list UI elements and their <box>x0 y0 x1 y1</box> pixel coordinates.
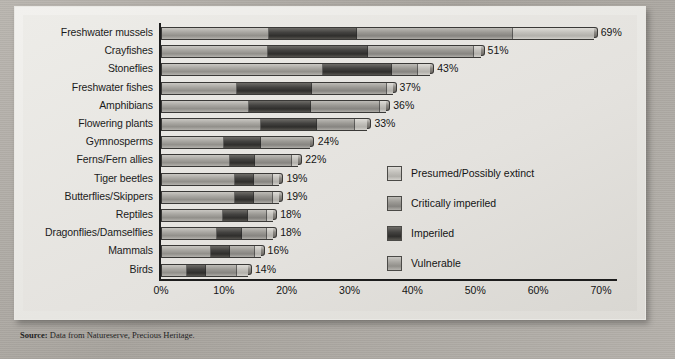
bar-row: Reptiles18% <box>23 206 637 223</box>
bar-row: Butterflies/Skippers19% <box>23 188 637 205</box>
bar-segment-imperiled <box>261 119 317 130</box>
category-label: Dragonflies/Damselflies <box>23 224 153 241</box>
legend-item-imperiled: Imperiled <box>387 218 534 248</box>
bar-row: Ferns/Fern allies22% <box>23 151 637 168</box>
bar-value-label: 18% <box>280 227 301 238</box>
legend-item-critically-imperiled: Critically imperiled <box>387 188 534 218</box>
bar-row: Mammals16% <box>23 242 637 259</box>
bar-segment-critically_imperiled <box>312 83 387 94</box>
bar-segment-imperiled <box>323 64 392 75</box>
legend-label: Presumed/Possibly extinct <box>411 167 534 179</box>
bar-segment-critically_imperiled <box>242 228 267 239</box>
bar-value-label: 19% <box>286 173 307 184</box>
bar-value-label: 19% <box>286 191 307 202</box>
bar-segment-presumed_possibly_extinct <box>418 64 430 75</box>
bar-end-cap <box>298 154 302 165</box>
bar-segment-critically_imperiled <box>206 265 237 276</box>
chart-plot-area: Freshwater mussels69%Crayfishes51%Stonef… <box>23 15 637 311</box>
bar-segment-imperiled <box>235 174 254 185</box>
bar-segment-imperiled <box>223 210 248 221</box>
legend-label: Critically imperiled <box>411 197 496 209</box>
bar-segment-imperiled <box>211 246 230 257</box>
bar-segment-critically_imperiled <box>368 46 474 57</box>
category-label: Flowering plants <box>23 115 153 132</box>
bar-end-cap <box>594 27 598 38</box>
bar-end-cap <box>367 118 371 129</box>
bar-end-cap <box>273 209 277 220</box>
x-tick-label: 60% <box>528 284 549 296</box>
bar-segment-critically_imperiled <box>254 174 273 185</box>
stacked-bar <box>161 173 283 184</box>
bar-segment-vulnerable <box>162 246 211 257</box>
bar-end-cap <box>481 45 485 56</box>
stacked-bar <box>161 27 598 38</box>
bar-segment-vulnerable <box>162 192 235 203</box>
stacked-bar <box>161 136 314 147</box>
bar-segment-imperiled <box>269 28 357 39</box>
bar-segment-vulnerable <box>162 137 224 148</box>
bar-row: Freshwater fishes37% <box>23 79 637 96</box>
bar-value-label: 22% <box>305 154 326 165</box>
bar-segment-critically_imperiled <box>311 101 380 112</box>
source-text: Data from Natureserve, Precious Heritage… <box>48 330 195 340</box>
bar-end-cap <box>310 136 314 147</box>
bar-row: Crayfishes51% <box>23 42 637 59</box>
bar-value-label: 51% <box>488 45 509 56</box>
bar-segment-critically_imperiled <box>261 137 310 148</box>
bar-segment-critically_imperiled <box>248 210 267 221</box>
bar-segment-vulnerable <box>162 228 217 239</box>
bar-segment-vulnerable <box>162 155 230 166</box>
bar-end-cap <box>273 227 277 238</box>
category-label: Freshwater mussels <box>23 24 153 41</box>
bar-row: Dragonflies/Damselflies18% <box>23 224 637 241</box>
figure-card: Freshwater mussels69%Crayfishes51%Stonef… <box>14 6 646 320</box>
category-label: Amphibians <box>23 97 153 114</box>
legend-label: Vulnerable <box>411 257 461 269</box>
stacked-bar <box>161 245 265 256</box>
category-label: Gymnosperms <box>23 133 153 150</box>
category-label: Crayfishes <box>23 42 153 59</box>
stacked-bar <box>161 264 252 275</box>
source-note: Source: Data from Natureserve, Precious … <box>20 330 195 340</box>
bar-segment-vulnerable <box>162 265 187 276</box>
bar-end-cap <box>248 264 252 275</box>
bar-value-label: 14% <box>255 264 276 275</box>
bar-segment-critically_imperiled <box>255 155 292 166</box>
bar-value-label: 33% <box>374 118 395 129</box>
bar-segment-imperiled <box>224 137 261 148</box>
bar-value-label: 69% <box>601 27 622 38</box>
category-label: Mammals <box>23 242 153 259</box>
bar-value-label: 37% <box>400 82 421 93</box>
x-tick-label: 70% <box>590 284 611 296</box>
x-axis-line <box>159 279 617 281</box>
stacked-bar <box>161 191 283 202</box>
bar-segment-imperiled <box>187 265 206 276</box>
bar-segment-vulnerable <box>162 83 237 94</box>
bar-row: Flowering plants33% <box>23 115 637 132</box>
category-label: Ferns/Fern allies <box>23 151 153 168</box>
x-tick-label: 30% <box>339 284 360 296</box>
bar-segment-critically_imperiled <box>230 246 255 257</box>
legend-swatch-critically-imperiled <box>387 196 402 211</box>
bar-end-cap <box>279 173 283 184</box>
bar-segment-vulnerable <box>162 28 269 39</box>
bar-segment-vulnerable <box>162 210 223 221</box>
stacked-bar <box>161 100 390 111</box>
bar-row: Freshwater mussels69% <box>23 24 637 41</box>
bar-row: Stoneflies43% <box>23 60 637 77</box>
stacked-bar <box>161 63 434 74</box>
bar-segment-vulnerable <box>162 119 261 130</box>
legend-swatch-presumed-possibly-extinct <box>387 166 402 181</box>
stacked-bar <box>161 118 371 129</box>
source-label: Source: <box>20 330 48 340</box>
category-label: Birds <box>23 261 153 278</box>
stacked-bar <box>161 45 485 56</box>
chart-legend: Presumed/Possibly extinctCritically impe… <box>387 158 534 278</box>
bar-segment-presumed_possibly_extinct <box>513 28 594 39</box>
bar-end-cap <box>279 191 283 202</box>
bar-row: Amphibians36% <box>23 97 637 114</box>
bar-end-cap <box>261 245 265 256</box>
bar-segment-imperiled <box>237 83 312 94</box>
category-label: Butterflies/Skippers <box>23 188 153 205</box>
bar-value-label: 24% <box>318 136 339 147</box>
